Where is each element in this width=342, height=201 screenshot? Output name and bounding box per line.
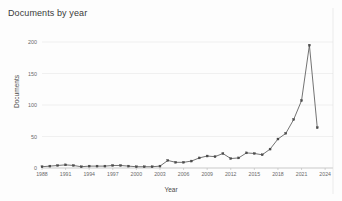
data-point (293, 118, 295, 120)
data-point (183, 161, 185, 163)
x-tick-label: 2012 (225, 171, 237, 177)
data-point (277, 138, 279, 140)
x-tick-label: 2021 (296, 171, 308, 177)
data-point (230, 158, 232, 160)
data-point (135, 166, 137, 168)
data-point (41, 166, 43, 168)
data-point (261, 154, 263, 156)
data-point (112, 164, 114, 166)
data-point (285, 132, 287, 134)
y-tick-label: 50 (31, 134, 37, 140)
data-point (96, 165, 98, 167)
plot-area: 050100150200 198819911994199720002003200… (0, 0, 342, 201)
data-point (143, 166, 145, 168)
x-tick-label: 1994 (83, 171, 95, 177)
data-point (57, 164, 59, 166)
data-point (128, 165, 130, 167)
data-point (316, 127, 318, 129)
y-tick-label: 100 (28, 102, 37, 108)
data-point (206, 155, 208, 157)
data-point (222, 153, 224, 155)
data-point (269, 148, 271, 150)
data-point (214, 156, 216, 158)
x-tick-label: 1991 (60, 171, 72, 177)
data-point (65, 164, 67, 166)
gridlines (42, 42, 333, 168)
documents-by-year-chart: Documents by year Documents Year 0501001… (0, 0, 342, 201)
data-point (253, 153, 255, 155)
x-tick-label: 2006 (178, 171, 190, 177)
x-tick-label: 1997 (107, 171, 119, 177)
data-point (151, 166, 153, 168)
x-tick-label: 2000 (131, 171, 143, 177)
x-tick-label: 1988 (36, 171, 48, 177)
data-point (198, 157, 200, 159)
data-point (104, 165, 106, 167)
data-point (238, 157, 240, 159)
data-point (72, 164, 74, 166)
data-series (42, 45, 317, 167)
x-tick-label: 2003 (154, 171, 166, 177)
series-line (42, 45, 317, 167)
data-point (175, 161, 177, 163)
y-axis-ticks: 050100150200 (28, 39, 37, 171)
y-tick-label: 150 (28, 71, 37, 77)
data-point (167, 159, 169, 161)
data-markers (41, 44, 318, 168)
data-point (120, 164, 122, 166)
data-point (49, 165, 51, 167)
data-point (80, 166, 82, 168)
data-point (159, 165, 161, 167)
data-point (190, 160, 192, 162)
x-tick-label: 2024 (319, 171, 331, 177)
x-tick-label: 2018 (272, 171, 284, 177)
data-point (308, 44, 310, 46)
data-point (245, 152, 247, 154)
x-tick-label: 2015 (249, 171, 261, 177)
data-point (301, 100, 303, 102)
x-tick-label: 2009 (201, 171, 213, 177)
y-tick-label: 200 (28, 39, 37, 45)
x-axis-ticks: 1988199119941997200020032006200920122015… (36, 171, 331, 177)
data-point (88, 165, 90, 167)
